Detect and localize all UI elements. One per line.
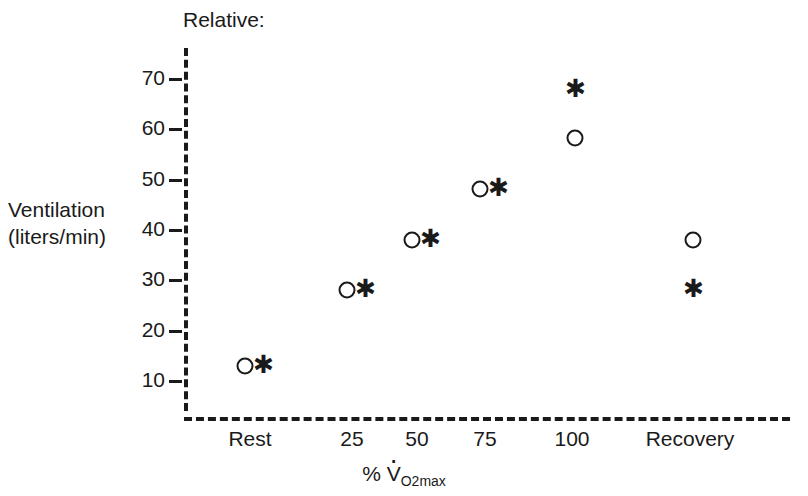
y-tick-mark	[169, 330, 182, 333]
y-tick-mark	[169, 128, 182, 131]
data-point-asterisk: ✱	[565, 75, 586, 100]
y-tick-label: 50	[109, 167, 165, 191]
y-axis-label: Ventilation (liters/min)	[8, 196, 106, 250]
y-axis-label-line2: (liters/min)	[8, 223, 106, 250]
x-axis-title-percent: %	[362, 462, 381, 485]
x-tick-label: 25	[340, 427, 363, 451]
y-tick-label: 70	[109, 66, 165, 90]
data-point-circle	[472, 181, 489, 198]
data-point-asterisk: ✱	[683, 275, 704, 300]
data-point-circle	[685, 232, 702, 249]
y-tick-label: 10	[109, 368, 165, 392]
y-tick-label: 60	[109, 116, 165, 140]
x-axis-title-sub-max: max	[419, 473, 445, 489]
y-axis-label-line1: Ventilation	[8, 196, 106, 223]
y-tick-mark	[169, 78, 182, 81]
data-point-asterisk: ✱	[420, 225, 441, 250]
y-tick-label: 30	[109, 267, 165, 291]
chart-title: Relative:	[183, 8, 265, 32]
chart-figure: Relative: Ventilation (liters/min) 10203…	[0, 0, 808, 496]
x-axis-title-sub-o: O	[401, 473, 412, 489]
y-tick-label: 40	[109, 217, 165, 241]
x-tick-label: Recovery	[646, 427, 735, 451]
x-axis-title: % VO2max	[0, 462, 808, 486]
x-tick-label: 50	[405, 427, 428, 451]
y-tick-mark	[169, 279, 182, 282]
data-point-circle	[237, 357, 254, 374]
y-tick-mark	[169, 380, 182, 383]
data-point-circle	[339, 281, 356, 298]
x-axis-title-v: V	[387, 462, 401, 486]
data-point-circle	[404, 232, 421, 249]
y-tick-mark	[169, 179, 182, 182]
x-tick-label: 75	[473, 427, 496, 451]
y-axis-line	[184, 48, 188, 411]
data-point-asterisk: ✱	[253, 352, 274, 377]
y-tick-label: 20	[109, 318, 165, 342]
data-point-asterisk: ✱	[488, 174, 509, 199]
data-point-circle	[567, 130, 584, 147]
y-tick-mark	[169, 229, 182, 232]
x-axis-line	[184, 417, 790, 421]
x-tick-label: 100	[554, 427, 589, 451]
data-point-asterisk: ✱	[355, 275, 376, 300]
x-tick-label: Rest	[228, 427, 271, 451]
